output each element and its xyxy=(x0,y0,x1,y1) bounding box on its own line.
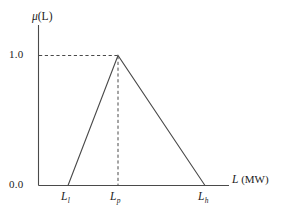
x-tick-lh-subscript: h xyxy=(205,196,209,205)
membership-function-curve xyxy=(68,56,205,186)
x-axis-title: L (MW) xyxy=(232,174,269,186)
x-tick-lh-symbol: L xyxy=(198,190,204,202)
x-tick-lp-subscript: p xyxy=(117,196,121,205)
x-tick-ll-symbol: L xyxy=(61,190,67,202)
y-tick-label-1: 1.0 xyxy=(9,49,23,60)
membership-function-figure: μ(L) 1.0 0.0 Ll Lp Lh L (MW) xyxy=(0,0,284,216)
x-tick-ll-subscript: l xyxy=(68,196,70,205)
y-axis-title: μ(L) xyxy=(32,11,52,23)
x-tick-lp-symbol: L xyxy=(110,190,116,202)
x-tick-label-lp: Lp xyxy=(110,191,120,203)
y-tick-label-0: 0.0 xyxy=(9,179,23,190)
x-axis-title-unit-text: (MW) xyxy=(241,173,269,185)
x-tick-label-lh: Lh xyxy=(198,191,208,203)
y-axis-title-arg: (L) xyxy=(38,10,53,22)
x-tick-label-ll: Ll xyxy=(61,191,70,203)
